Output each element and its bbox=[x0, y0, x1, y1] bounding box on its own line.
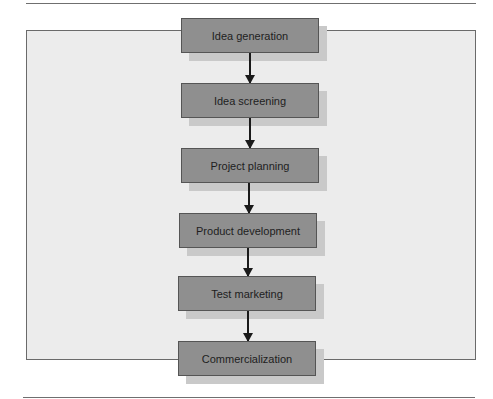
step-box: Project planning bbox=[181, 148, 319, 183]
arrow-down-icon bbox=[249, 53, 251, 83]
step-project-planning: Project planning bbox=[181, 148, 319, 183]
step-box: Test marketing bbox=[178, 276, 316, 311]
arrow-down-icon bbox=[249, 118, 251, 148]
step-box: Commercialization bbox=[178, 341, 316, 376]
step-idea-screening: Idea screening bbox=[181, 83, 319, 118]
step-test-marketing: Test marketing bbox=[178, 276, 316, 311]
top-rule bbox=[26, 3, 476, 4]
arrow-down-icon bbox=[247, 248, 249, 276]
step-idea-generation: Idea generation bbox=[181, 18, 319, 53]
step-commercialization: Commercialization bbox=[178, 341, 316, 376]
step-box: Idea generation bbox=[181, 18, 319, 53]
bottom-rule bbox=[23, 397, 475, 398]
step-product-development: Product development bbox=[179, 213, 317, 248]
arrow-down-icon bbox=[247, 311, 249, 341]
step-box: Idea screening bbox=[181, 83, 319, 118]
step-box: Product development bbox=[179, 213, 317, 248]
arrow-down-icon bbox=[248, 183, 250, 213]
